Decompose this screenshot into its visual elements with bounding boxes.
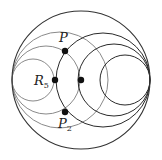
label-r5: R5 xyxy=(34,74,49,90)
circles-figure xyxy=(0,0,162,160)
point-m xyxy=(78,77,84,83)
left-circle-2 xyxy=(12,32,108,128)
right-circle-2 xyxy=(56,33,150,127)
point-p xyxy=(62,48,68,54)
right-circle-1 xyxy=(78,44,150,116)
label-p2: P2 xyxy=(58,117,72,133)
label-p: P xyxy=(59,31,68,44)
diagram-canvas: P R5 P2 xyxy=(0,0,162,160)
point-p2 xyxy=(62,109,68,115)
point-r5 xyxy=(52,77,58,83)
